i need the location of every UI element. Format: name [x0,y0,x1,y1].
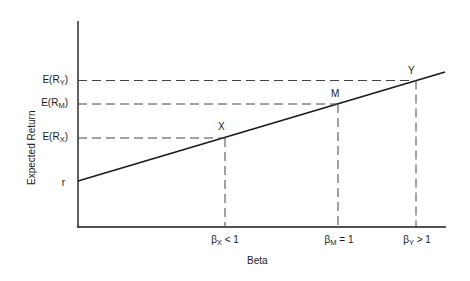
ytick-erx: E(RX) [8,131,68,146]
xtick-bm: βM = 1 [309,234,369,249]
security-market-line [78,72,445,181]
point-label-x: X [218,121,225,133]
y-axis-title: Expected Return [26,111,38,186]
point-label-y: Y [408,65,415,77]
x-axis-title: Beta [247,255,268,267]
xtick-bx: βX < 1 [195,234,255,249]
ytick-r: r [5,177,65,189]
ytick-erm: E(RM) [8,97,68,112]
xtick-by: βY > 1 [387,234,447,249]
point-label-m: M [331,88,339,100]
ytick-ery: E(RY) [8,74,68,89]
